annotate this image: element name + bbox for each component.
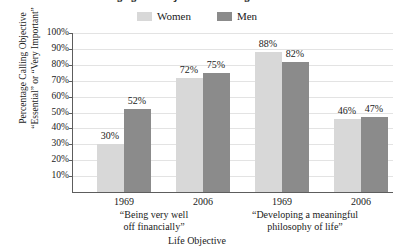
- y-tick-label: 100%: [33, 28, 69, 38]
- y-axis-title-line1: Percentage Calling Objective: [17, 0, 29, 153]
- y-axis-tick: [69, 113, 73, 114]
- x-group-label-philosophy: “Developing a meaningful philosophy of l…: [222, 209, 388, 232]
- y-axis-tick: [69, 176, 73, 177]
- bar-value-men-1969-financial: 52%: [122, 96, 152, 106]
- gridline: [73, 65, 393, 66]
- bar-men-1969-philosophy[interactable]: [282, 62, 309, 192]
- bar-value-women-1969-philosophy: 88%: [253, 39, 283, 49]
- y-axis-tick: [69, 49, 73, 50]
- gridline: [73, 81, 393, 82]
- chart-legend: Women Men: [0, 10, 394, 23]
- bar-chart-figure: Changing Life Objectives of College Fres…: [0, 0, 394, 249]
- y-axis-tick: [69, 81, 73, 82]
- gridline: [73, 49, 393, 50]
- bar-women-1969-financial[interactable]: [97, 144, 124, 192]
- x-group-label-financial: “Being very well off financially”: [80, 209, 228, 232]
- bar-men-2006-financial[interactable]: [203, 73, 230, 192]
- x-group-label-financial-line1: “Being very well: [80, 209, 228, 221]
- bar-value-women-1969-financial: 30%: [95, 131, 125, 141]
- x-axis-title: Life Objective: [0, 235, 394, 246]
- y-tick-label: 60%: [33, 92, 69, 102]
- x-group-label-philosophy-line1: “Developing a meaningful: [222, 209, 388, 221]
- y-axis-tick-labels: 100% 90% 80% 70% 60% 50% 40% 30% 20% 10%: [33, 33, 69, 192]
- y-axis-tick: [69, 160, 73, 161]
- legend-item-men[interactable]: Men: [217, 11, 257, 22]
- x-axis-line: [72, 192, 393, 193]
- bar-women-2006-philosophy[interactable]: [334, 119, 361, 192]
- y-axis-tick: [69, 144, 73, 145]
- bar-women-2006-financial[interactable]: [176, 78, 203, 193]
- y-tick-label: 30%: [33, 139, 69, 149]
- legend-swatch-men: [217, 12, 232, 21]
- bar-men-1969-financial[interactable]: [124, 109, 151, 192]
- gridline: [73, 97, 393, 98]
- y-tick-label: 70%: [33, 76, 69, 86]
- x-group-label-financial-line2: off financially”: [80, 221, 228, 233]
- legend-item-women[interactable]: Women: [137, 11, 191, 22]
- y-axis-tick: [69, 33, 73, 34]
- bar-value-women-2006-philosophy: 46%: [332, 106, 362, 116]
- y-tick-label: 20%: [33, 155, 69, 165]
- x-tick-label-group1-2006: 2006: [175, 196, 231, 207]
- bar-value-men-1969-philosophy: 82%: [280, 49, 310, 59]
- y-tick-label: 50%: [33, 108, 69, 118]
- y-tick-label: 90%: [33, 44, 69, 54]
- y-axis-tick: [69, 65, 73, 66]
- y-tick-label: 80%: [33, 60, 69, 70]
- y-axis-tick: [69, 128, 73, 129]
- y-tick-label: 40%: [33, 123, 69, 133]
- bar-men-2006-philosophy[interactable]: [361, 117, 388, 192]
- y-tick-label: 10%: [33, 171, 69, 181]
- legend-label-women: Women: [157, 11, 191, 22]
- x-tick-label-group2-1969: 1969: [254, 196, 310, 207]
- x-tick-label-group2-2006: 2006: [333, 196, 389, 207]
- gridline: [73, 33, 393, 34]
- bar-value-men-2006-financial: 75%: [201, 60, 231, 70]
- bar-women-1969-philosophy[interactable]: [255, 52, 282, 192]
- plot-area: 30% 52% 72% 75% 88% 82% 46% 47%: [73, 33, 393, 192]
- legend-label-men: Men: [237, 11, 257, 22]
- legend-swatch-women: [137, 12, 152, 21]
- y-axis-tick: [69, 97, 73, 98]
- chart-title: Changing Life Objectives of College Fres…: [0, 0, 394, 2]
- bar-value-men-2006-philosophy: 47%: [359, 104, 389, 114]
- bar-value-women-2006-financial: 72%: [174, 65, 204, 75]
- x-group-label-philosophy-line2: philosophy of life”: [222, 221, 388, 233]
- x-tick-label-group1-1969: 1969: [96, 196, 152, 207]
